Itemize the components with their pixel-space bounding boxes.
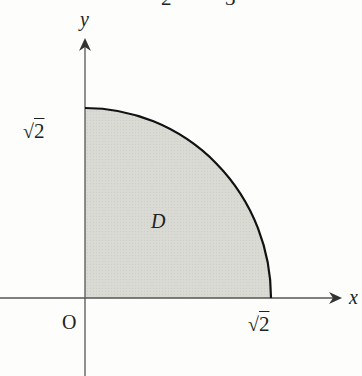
region-d-fill — [85, 108, 271, 298]
radical-icon: √ — [23, 120, 34, 142]
x-tick-value: 2 — [259, 312, 270, 336]
x-tick-sqrt2: √2 — [248, 314, 269, 335]
quarter-disk-diagram — [0, 0, 362, 376]
region-d-label: D — [151, 211, 165, 231]
top-fragment-right: 3 — [225, 0, 236, 9]
y-axis-label: y — [80, 9, 89, 29]
top-fragment-left: 2 — [161, 0, 172, 9]
x-axis-label: x — [349, 287, 358, 307]
y-tick-sqrt2: √2 — [23, 121, 44, 142]
y-tick-value: 2 — [34, 119, 45, 143]
radical-icon: √ — [248, 313, 259, 335]
origin-label: O — [62, 312, 76, 332]
